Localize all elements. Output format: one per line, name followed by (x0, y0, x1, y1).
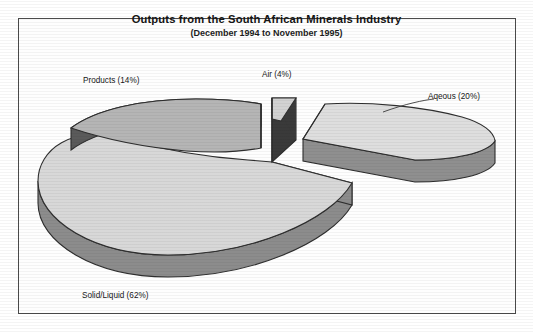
pie-slice-air[interactable] (272, 98, 296, 162)
pie-slice-aqeous[interactable] (303, 103, 495, 182)
slice-label-air: Air (4%) (262, 70, 292, 79)
slice-label-products: Products (14%) (83, 76, 139, 85)
pie-chart-graphic (0, 0, 533, 332)
slice-label-solid-liquid: Solid/Liquid (62%) (82, 291, 148, 300)
slice-label-aqeous: Aqeous (20%) (428, 92, 480, 101)
